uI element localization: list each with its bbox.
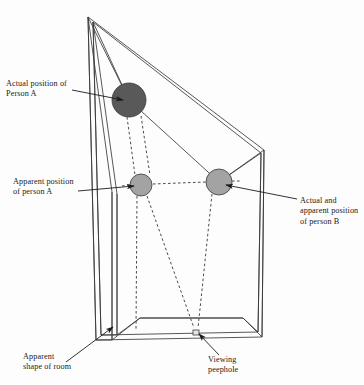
sightline-a-drop-left [127,117,135,175]
person-a-actual-marker [112,83,146,117]
sightline-apparent-vertical [136,196,137,330]
sight-lines [122,116,240,330]
person-b-marker [206,169,232,195]
label-viewing-peephole: Viewing peephole [208,355,238,376]
label-actual-apparent-position-b: Actual and apparent position of person B [300,196,358,227]
sightline-to-peephole-left [147,196,194,328]
leader-peephole [199,334,219,355]
leader-person-b [226,185,297,199]
room-floor [112,318,262,340]
rear-wall-outline [88,17,264,340]
leader-apparent-a [78,186,134,191]
ames-room-diagram: Actual position of Person A Apparent pos… [0,0,364,385]
sightline-a-drop-right [141,116,150,175]
viewing-peephole [193,330,199,335]
right-wall-edge [258,150,264,337]
sightline-a-left-stub [122,185,130,186]
left-wall-edge [112,192,117,340]
label-actual-position-a: Actual position of Person A [6,79,67,100]
leader-apparent-shape [66,327,113,362]
label-apparent-position-a: Apparent position of person A [13,177,74,198]
label-apparent-shape-of-room: Apparent shape of room [23,352,71,373]
sightline-a-to-b [153,182,206,184]
person-a-apparent-marker [130,174,152,196]
sightline-to-peephole-right [198,194,212,328]
